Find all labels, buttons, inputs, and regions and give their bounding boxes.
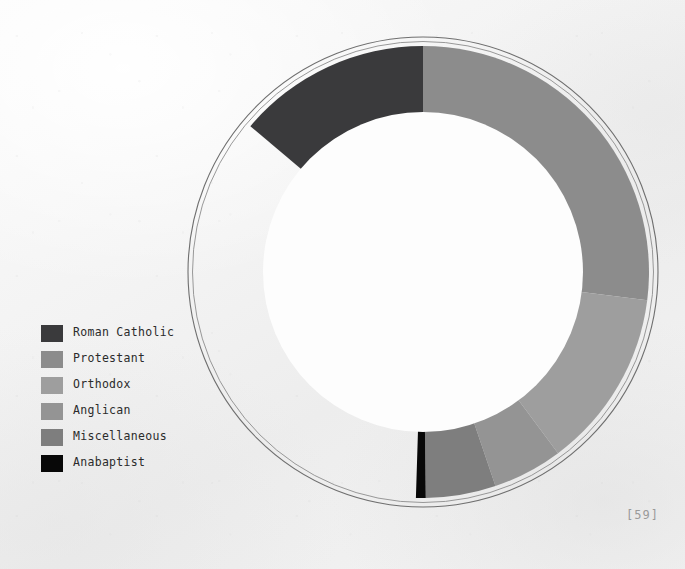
legend-item[interactable]: Anglican [41,398,221,424]
color-swatch-icon [41,403,63,420]
legend-item[interactable]: Protestant [41,346,221,372]
chart-legend: Roman CatholicProtestantOrthodoxAnglican… [41,320,221,476]
legend-item-label: Roman Catholic [73,327,174,339]
page-number: [59] [626,508,659,522]
donut-chart [0,0,685,569]
legend-item-label: Anglican [73,405,131,417]
color-swatch-icon [41,429,63,446]
page-canvas: Roman CatholicProtestantOrthodoxAnglican… [0,0,685,569]
legend-item-label: Anabaptist [73,457,145,469]
legend-item[interactable]: Anabaptist [41,450,221,476]
legend-item[interactable]: Orthodox [41,372,221,398]
color-swatch-icon [41,455,63,472]
color-swatch-icon [41,377,63,394]
legend-item[interactable]: Miscellaneous [41,424,221,450]
legend-item-label: Orthodox [73,379,131,391]
donut-center-hole [263,112,583,432]
legend-item-label: Miscellaneous [73,431,167,443]
donut-chart-svg [0,0,685,569]
legend-item-label: Protestant [73,353,145,365]
legend-item[interactable]: Roman Catholic [41,320,221,346]
color-swatch-icon [41,325,63,342]
color-swatch-icon [41,351,63,368]
